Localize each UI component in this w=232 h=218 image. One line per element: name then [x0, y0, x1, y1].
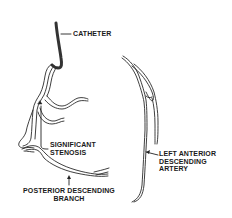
- stenosis-label: SIGNIFICANT STENOSIS: [50, 141, 96, 156]
- right-coronary-artery: [19, 64, 88, 148]
- lad-label-line3: ARTERY: [159, 165, 216, 173]
- lad-label-line1: LEFT ANTERIOR: [159, 150, 216, 158]
- left-anterior-descending-artery: [122, 56, 158, 202]
- catheter-label: CATHETER: [73, 30, 111, 38]
- posterior-label-line2: BRANCH: [19, 195, 119, 203]
- posterior-label-line1: POSTERIOR DESCENDING: [19, 187, 119, 195]
- lad-label-line2: DESCENDING: [159, 158, 216, 166]
- lad-label: LEFT ANTERIOR DESCENDING ARTERY: [159, 150, 216, 173]
- stenosis-mark: [38, 101, 42, 104]
- catheter-label-text: CATHETER: [73, 30, 111, 38]
- coronary-artery-diagram: [0, 0, 232, 218]
- posterior-descending-label: POSTERIOR DESCENDING BRANCH: [19, 187, 119, 202]
- lad-leader: [146, 150, 158, 155]
- posterior-arrow: [67, 175, 71, 185]
- stenosis-label-line2: STENOSIS: [50, 149, 96, 157]
- stenosis-label-line1: SIGNIFICANT: [50, 141, 96, 149]
- catheter-tube: [52, 23, 62, 68]
